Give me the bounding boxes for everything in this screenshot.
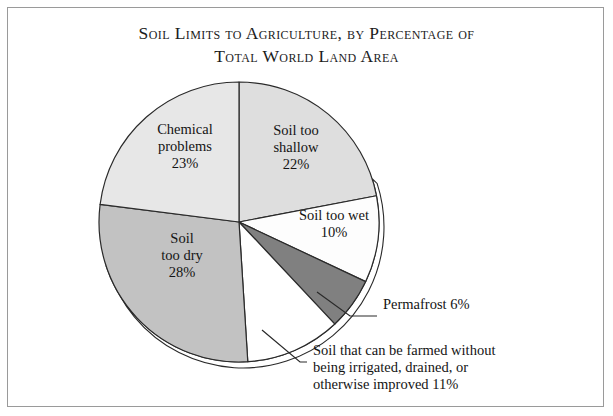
pie-chart: Soil tooshallow22%Soil too wet10%Permafr…: [0, 0, 613, 416]
pie-label-permafrost: Permafrost 6%: [383, 296, 470, 312]
pie-label-line: being irrigated, drained, or: [313, 359, 468, 375]
pie-label-line: 10%: [321, 224, 348, 240]
pie-label-soil-that-can-be-farmed: Soil that can be farmed withoutbeing irr…: [313, 342, 495, 392]
pie-label-line: Soil that can be farmed without: [313, 342, 495, 358]
pie-label-line: Permafrost 6%: [383, 296, 470, 312]
pie-label-line: 22%: [283, 156, 310, 172]
pie-label-line: problems: [158, 138, 212, 154]
pie-label-line: Soil too: [273, 122, 319, 138]
pie-label-line: Chemical: [157, 121, 213, 137]
pie-label-line: otherwise improved 11%: [313, 376, 458, 392]
pie-label-line: 28%: [169, 264, 196, 280]
chart-page: Soil Limits to Agriculture, by Percentag…: [0, 0, 613, 416]
pie-slice-soil-too-dry[interactable]: [99, 204, 248, 362]
pie-label-line: too dry: [161, 247, 203, 263]
pie-label-line: shallow: [273, 139, 319, 155]
pie-label-line: 23%: [172, 155, 199, 171]
pie-label-line: Soil: [170, 230, 193, 246]
pie-label-line: Soil too wet: [299, 207, 369, 223]
